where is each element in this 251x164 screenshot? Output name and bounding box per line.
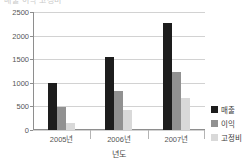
x-tick-label: 2006년 [107, 133, 131, 144]
legend-item[interactable]: 이익 [211, 118, 242, 129]
y-tick-label: 2500 [12, 8, 29, 17]
legend-item[interactable]: 매출 [211, 104, 242, 115]
legend-item[interactable]: 고정비 [211, 132, 242, 143]
y-tick-label: 1000 [12, 78, 29, 87]
bar [66, 123, 75, 130]
bar-group: 2006년 [90, 12, 147, 130]
y-tick-label: 0 [25, 126, 29, 135]
bar [163, 23, 172, 130]
legend: 매출이익고정비 [211, 104, 242, 143]
y-tick-label: 500 [16, 102, 29, 111]
legend-swatch-icon [211, 120, 218, 127]
y-tick-label: 2000 [12, 31, 29, 40]
bar [57, 107, 66, 130]
legend-label: 매출 [221, 104, 235, 115]
plot-area: 05001000150020002500 2005년2006년2007년 [33, 12, 205, 130]
bar-group: 2007년 [148, 12, 205, 130]
clipped-header-text: 매출 이익 고정비 [4, 0, 62, 5]
x-tick-label: 2007년 [164, 133, 188, 144]
bar [48, 83, 57, 130]
y-tick-mark [30, 130, 33, 131]
clipped-header-strip: 매출 이익 고정비 [0, 0, 251, 8]
bar-groups: 2005년2006년2007년 [33, 12, 205, 130]
bar-chart: 매출 이익 고정비 05001000150020002500 2005년2006… [0, 0, 251, 164]
category-separator [204, 130, 205, 139]
bar [114, 91, 123, 130]
legend-swatch-icon [211, 134, 218, 141]
bar [181, 98, 190, 130]
bar [172, 72, 181, 130]
bar-group: 2005년 [33, 12, 90, 130]
legend-label: 이익 [221, 118, 235, 129]
category-separator [90, 130, 91, 139]
y-tick-label: 1500 [12, 55, 29, 64]
x-tick-label: 2005년 [50, 133, 74, 144]
bar [105, 57, 114, 130]
bar [123, 110, 132, 130]
gridline [33, 130, 205, 131]
legend-label: 고정비 [221, 132, 242, 143]
category-separator [148, 130, 149, 139]
legend-swatch-icon [211, 106, 218, 113]
x-axis-title: 년도 [33, 148, 205, 159]
